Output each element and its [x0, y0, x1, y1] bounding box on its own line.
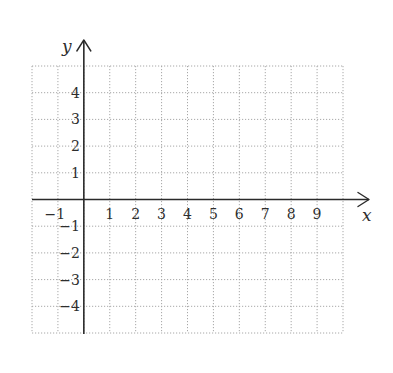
x-tick-label: 6	[235, 206, 244, 222]
y-tick-label: −3	[59, 272, 80, 288]
x-tick-label: 5	[209, 206, 218, 222]
y-tick-label: −1	[59, 218, 80, 234]
x-tick-label: 7	[261, 206, 270, 222]
y-axis-title: y	[61, 36, 72, 56]
x-tick-label: 2	[131, 206, 140, 222]
x-tick-label: 4	[183, 206, 192, 222]
y-tick-label: −2	[59, 245, 80, 261]
y-tick-label: 3	[71, 111, 80, 127]
y-tick-label: −4	[59, 298, 80, 314]
y-tick-label: 4	[71, 85, 80, 101]
x-tick-label: 3	[157, 206, 166, 222]
y-tick-label: 2	[71, 138, 80, 154]
x-tick-label: 9	[313, 206, 322, 222]
x-tick-label: 1	[105, 206, 114, 222]
x-axis-title: x	[362, 205, 372, 225]
axes	[32, 40, 369, 334]
x-tick-label: 8	[287, 206, 296, 222]
x-tick-labels: −1123456789	[45, 206, 322, 222]
coordinate-plane: −1123456789 4321−1−2−3−4 x y	[0, 0, 393, 373]
y-tick-label: 1	[71, 165, 80, 181]
